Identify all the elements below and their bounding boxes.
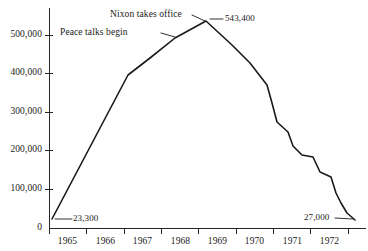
annotation-nixon-office: Nixon takes office [110, 9, 182, 19]
annotation-end-value: 27,000 [304, 212, 329, 222]
y-tick-label-500000: 500,000 [0, 29, 42, 39]
y-tick-label-100000: 100,000 [0, 183, 42, 193]
x-tick-label-1971: 1971 [273, 236, 312, 246]
x-tick-label-1966: 1966 [86, 236, 125, 246]
y-tick-label-300000: 300,000 [0, 106, 42, 116]
leader-line-end-value [335, 218, 353, 219]
x-tick-label-1970: 1970 [235, 236, 274, 246]
y-tick-label-200000: 200,000 [0, 144, 42, 154]
leader-line-nixon-office [192, 15, 205, 21]
x-tick-label-1965: 1965 [48, 236, 87, 246]
y-tick-label-0: 0 [0, 222, 42, 232]
data-series-line [52, 21, 355, 220]
x-tick-label-1967: 1967 [123, 236, 162, 246]
x-tick-label-1969: 1969 [198, 236, 237, 246]
annotation-start-value: 23,300 [73, 213, 98, 223]
troop-levels-line-chart: 500,000 400,000 300,000 200,000 100,000 … [0, 0, 368, 251]
y-tick-label-400000: 400,000 [0, 67, 42, 77]
x-tick-label-1972: 1972 [310, 236, 349, 246]
leader-line-peace-talks [161, 33, 175, 37]
x-axis-ticks [50, 229, 349, 235]
annotation-peace-talks: Peace talks begin [60, 27, 128, 37]
annotation-peak-value: 543,400 [225, 13, 255, 23]
x-tick-label-1968: 1968 [161, 236, 200, 246]
